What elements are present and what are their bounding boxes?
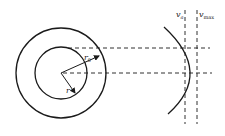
label-v-a: va bbox=[176, 10, 184, 20]
label-r: r bbox=[66, 86, 71, 95]
annular-flow-diagram: va vmax r0 r bbox=[0, 0, 225, 136]
label-v-max: vmax bbox=[199, 10, 214, 20]
label-r0: r0 bbox=[84, 53, 91, 63]
velocity-profile-curve bbox=[164, 27, 190, 114]
r0-arrow bbox=[61, 56, 99, 73]
